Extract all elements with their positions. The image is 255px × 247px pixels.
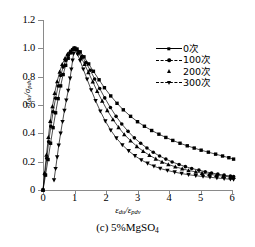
chart-data-point	[62, 109, 66, 113]
x-axis-title-sub-pdv: pdv	[131, 208, 140, 215]
chart-data-point	[199, 148, 202, 151]
chart-data-point	[105, 108, 109, 112]
x-axis-tick-label: 3	[128, 192, 148, 203]
chart-data-point	[145, 162, 149, 166]
chart-data-point	[52, 91, 56, 95]
chart-data-point	[145, 146, 149, 150]
chart-data-point	[150, 129, 153, 132]
chart-data-point	[53, 167, 57, 171]
chart-data-point	[93, 99, 97, 103]
y-axis-title-sub-pdv: pdv	[25, 79, 32, 88]
chart-data-point	[58, 132, 62, 136]
chart-data-point	[151, 151, 155, 155]
chart-data-point	[214, 152, 217, 155]
chart-data-point	[154, 157, 158, 161]
chart-data-point	[66, 89, 70, 93]
chart-data-point	[141, 149, 145, 153]
legend-symbol-icon	[167, 58, 171, 62]
chart-data-point	[103, 86, 106, 89]
y-axis-tick-label: 0.4	[4, 128, 35, 138]
legend-item-1[interactable]: 0次	[156, 42, 234, 53]
chart-data-point	[129, 115, 132, 118]
chart-data-point	[92, 70, 95, 73]
chart-data-point	[231, 178, 235, 182]
y-axis-tick-label: 0.2	[4, 157, 35, 167]
x-axis-tick-label: 2	[96, 192, 116, 203]
x-axis-title: εdu/εpdv	[78, 205, 178, 215]
chart-data-point	[143, 125, 146, 128]
chart-data-point	[114, 115, 118, 119]
chart-data-point	[97, 78, 100, 81]
chart-data-point	[64, 98, 68, 102]
chart-data-point	[126, 149, 130, 153]
chart-data-point	[133, 136, 137, 140]
y-axis-tick-label: 0	[4, 185, 35, 195]
chart-data-point	[178, 142, 181, 145]
chart-data-point	[78, 59, 82, 63]
chart-data-point	[184, 165, 188, 169]
chart-data-point	[186, 144, 189, 147]
chart-data-point	[164, 136, 167, 139]
chart-data-point	[207, 150, 210, 153]
y-axis-title: σdu/σpdv	[22, 61, 32, 125]
chart-data-point	[221, 154, 224, 157]
chart-data-point	[60, 62, 64, 66]
chart-data-point	[98, 109, 102, 113]
legend-item-4[interactable]: 300次	[156, 76, 234, 87]
chart-data-point	[227, 156, 230, 159]
chart-data-point	[139, 158, 143, 162]
chart-data-point	[109, 106, 113, 110]
chart-data-point	[98, 87, 102, 91]
x-axis-tick-label: 0	[33, 192, 53, 203]
chart-data-point	[44, 153, 48, 157]
chart-data-point	[232, 157, 235, 160]
y-axis-tick-label: 1.0	[4, 43, 35, 53]
figure-caption-subscript: 4	[155, 226, 159, 235]
x-axis-tick-label: 5	[191, 192, 211, 203]
chart-data-point	[170, 160, 174, 164]
chart-data-point	[103, 96, 107, 100]
chart-data-point	[89, 88, 93, 92]
chart-data-point	[111, 117, 115, 121]
y-axis-title-sub-du: du	[25, 96, 32, 103]
chart-data-point	[147, 153, 151, 157]
chart-data-point	[122, 108, 125, 111]
chart-data-point	[160, 160, 164, 164]
chart-data-point	[52, 178, 56, 182]
chart-data-point	[158, 154, 162, 158]
chart-data-point	[136, 120, 139, 123]
chart-data-point	[171, 139, 174, 142]
chart-data-point	[177, 163, 181, 167]
chart-data-point	[69, 68, 73, 72]
chart-data-point	[139, 141, 143, 145]
legend-symbol-icon	[167, 81, 171, 85]
chart-data-point	[57, 70, 61, 74]
chart-legend: 0次100次200次300次	[156, 42, 234, 88]
chart-data-point	[68, 77, 72, 81]
chart-data-point	[45, 156, 49, 160]
legend-item-3[interactable]: 200次	[156, 65, 234, 76]
chart-data-point	[203, 170, 207, 174]
legend-label: 300次	[183, 77, 211, 88]
y-axis-tick-label: 1.2	[4, 15, 35, 25]
chart-data-point	[190, 167, 194, 171]
chart-data-point	[55, 155, 59, 159]
figure-caption-text: (c) 5%MgSO	[96, 221, 155, 233]
chart-data-point	[193, 146, 196, 149]
legend-symbol-icon	[167, 47, 170, 50]
chart-data-point	[93, 77, 97, 81]
chart-data-point	[120, 122, 124, 126]
chart-data-point	[60, 120, 64, 124]
legend-symbol-icon	[167, 69, 171, 73]
y-axis-title-slash: /σ	[22, 89, 32, 96]
x-axis-tick-label: 1	[65, 192, 85, 203]
chart-data-point	[57, 144, 61, 148]
chart-data-point	[126, 130, 130, 134]
x-axis-tick-label: 6	[222, 192, 242, 203]
chart-data-point	[157, 132, 160, 135]
legend-marker-triangle-down-icon	[156, 77, 182, 88]
legend-item-2[interactable]: 100次	[156, 53, 234, 64]
chart-data-point	[55, 79, 59, 83]
x-axis-tick-label: 4	[159, 192, 179, 203]
chart-data-point	[115, 102, 118, 105]
